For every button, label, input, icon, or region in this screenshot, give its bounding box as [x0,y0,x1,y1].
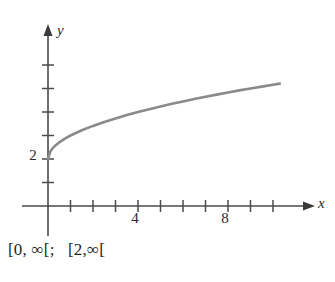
x-tick-label-4: 4 [127,211,143,226]
figure-page: y x 4 8 2 [0, ∞[; [2,∞[ [0,0,335,282]
y-axis-label: y [57,23,64,38]
x-axis-arrowhead [303,202,315,211]
x-tick-label-8: 8 [217,211,233,226]
y-tick-label-2: 2 [26,148,40,163]
interval-answer-text: [0, ∞[; [2,∞[ [8,240,105,260]
y-axis-arrowhead [44,24,53,36]
sqrt-curve [48,84,280,159]
x-axis-label: x [318,196,325,211]
